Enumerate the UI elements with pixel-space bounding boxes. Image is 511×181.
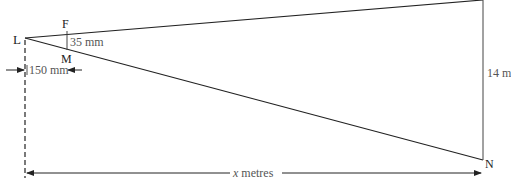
dim-x-metres-label: x metres xyxy=(232,166,274,180)
lower-ray-line xyxy=(25,38,483,160)
similar-triangles-diagram: L F M N 35 mm 150 mm 14 m x metres xyxy=(0,0,511,181)
metres-unit: metres xyxy=(238,166,273,180)
label-N: N xyxy=(485,157,494,171)
dim-14m-label: 14 m xyxy=(487,66,511,80)
label-L: L xyxy=(13,32,21,47)
dim-35mm-label: 35 mm xyxy=(70,35,104,49)
label-F: F xyxy=(62,17,69,31)
upper-ray-line xyxy=(25,0,483,38)
dim-150mm-label: 150 mm xyxy=(29,63,69,77)
